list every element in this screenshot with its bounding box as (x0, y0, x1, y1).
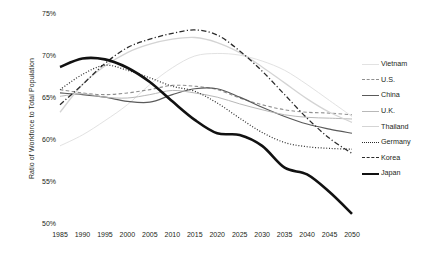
series-line-japan (60, 58, 352, 214)
legend-item-china[interactable]: China (362, 87, 420, 103)
legend-item-label: U.S. (381, 76, 395, 83)
plot-area (0, 0, 421, 257)
legend-item-vietnam[interactable]: Vietnam (362, 56, 420, 72)
legend-item-us[interactable]: U.S. (362, 72, 420, 88)
legend-item-korea[interactable]: Korea (362, 150, 420, 166)
series-line-germany (60, 65, 352, 149)
workforce-ratio-line-chart: Ratio of Workforce to Total Population 5… (0, 0, 421, 257)
chart-legend: VietnamU.S.ChinaU.K.ThailandGermanyKorea… (362, 56, 420, 181)
legend-line-sample-icon (362, 152, 379, 162)
series-line-korea (60, 30, 352, 154)
legend-item-label: China (381, 91, 400, 98)
series-line-thailand (60, 37, 352, 122)
legend-line-sample-icon (362, 168, 379, 178)
legend-item-label: Thailand (381, 123, 409, 130)
legend-item-uk[interactable]: U.K. (362, 103, 420, 119)
legend-item-label: U.K. (381, 107, 395, 114)
legend-line-sample-icon (362, 90, 379, 100)
legend-line-sample-icon (362, 74, 379, 84)
legend-item-label: Japan (381, 169, 401, 176)
legend-item-japan[interactable]: Japan (362, 165, 420, 181)
legend-item-label: Korea (381, 154, 400, 161)
legend-line-sample-icon (362, 106, 379, 116)
legend-item-germany[interactable]: Germany (362, 134, 420, 150)
legend-item-label: Vietnam (381, 60, 407, 67)
legend-line-sample-icon (362, 137, 379, 147)
legend-item-thailand[interactable]: Thailand (362, 118, 420, 134)
legend-item-label: Germany (381, 138, 411, 145)
legend-line-sample-icon (362, 121, 379, 131)
legend-line-sample-icon (362, 59, 379, 69)
